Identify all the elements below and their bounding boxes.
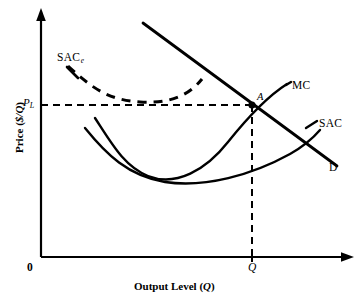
x-axis-title-prefix: Output Level ( (134, 280, 203, 292)
curve-label-sac-e-subscript: e (81, 56, 85, 65)
y-axis-title-suffix: ) (13, 102, 25, 106)
x-axis-title-variable: Q (203, 280, 211, 292)
diagram-canvas (0, 0, 361, 301)
equilibrium-point-label: A (257, 92, 263, 103)
y-axis-tick-label-subscript: L (30, 101, 34, 110)
sac-leader-line (306, 121, 317, 128)
curve-label-sac-e-base: SAC (57, 51, 80, 63)
x-axis-title: Output Level (Q) (134, 281, 215, 292)
y-axis-title-prefix: Price ( (13, 122, 25, 153)
equilibrium-point-marker (248, 101, 255, 108)
x-axis (41, 252, 354, 262)
mc-leader-line (286, 82, 291, 85)
sac-e-curve (68, 66, 202, 102)
y-axis (36, 8, 46, 257)
y-axis-title-variable: $/Q (13, 106, 25, 123)
curve-label-sac-e: SACe (57, 52, 84, 65)
x-axis-tick-label-q: Q (248, 262, 256, 274)
curve-label-mc: MC (292, 80, 311, 92)
origin-label: 0 (27, 262, 33, 274)
x-axis-arrowhead (341, 252, 354, 262)
curve-label-sac: SAC (319, 118, 342, 130)
demand-curve (143, 23, 337, 166)
x-axis-title-suffix: ) (211, 280, 215, 292)
economics-diagram: SACe MC SAC D A PL 0 Q Output Level (Q) … (0, 0, 361, 301)
y-axis-tick-label-pl: PL (23, 97, 34, 110)
y-axis-arrowhead (36, 8, 46, 21)
y-axis-title: Price ($/Q) (14, 88, 25, 168)
curve-label-d: D (329, 162, 338, 174)
